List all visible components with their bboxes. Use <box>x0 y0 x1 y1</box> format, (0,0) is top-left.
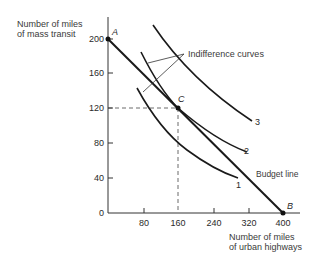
point-b-marker <box>281 211 286 216</box>
indifference-curve-1 <box>137 88 238 178</box>
y-tick-label-40: 40 <box>80 173 104 183</box>
x-tick-label-80: 80 <box>132 218 156 228</box>
point-c-marker <box>176 106 181 111</box>
x-axis-title-line2: of urban highways <box>229 242 302 253</box>
point-c-label: C <box>178 94 185 104</box>
x-tick-label-320: 320 <box>237 218 261 228</box>
budget-line-label: Budget line <box>256 169 299 180</box>
y-tick-label-80: 80 <box>80 138 104 148</box>
x-tick-label-400: 400 <box>271 218 295 228</box>
point-a-label: A <box>112 27 118 37</box>
y-tick-label-200: 200 <box>80 34 104 44</box>
point-b-label: B <box>287 201 293 211</box>
y-ticks <box>108 39 113 178</box>
y-tick-label-0: 0 <box>80 208 104 218</box>
indifference-curves-label: Indifference curves <box>188 49 264 60</box>
indifference-curve-3 <box>153 25 252 121</box>
point-a-marker <box>106 37 111 42</box>
x-ticks <box>144 208 249 213</box>
x-tick-label-160: 160 <box>166 218 190 228</box>
y-axis-title-line2: of mass transit <box>17 29 76 40</box>
indifference-pointer-lines <box>143 54 184 92</box>
y-tick-label-160: 160 <box>80 68 104 78</box>
indifference-curve-2 <box>141 52 247 152</box>
curve-1-label: 1 <box>236 180 241 190</box>
x-tick-label-240: 240 <box>202 218 226 228</box>
y-tick-label-120: 120 <box>80 103 104 113</box>
curve-2-label: 2 <box>244 146 249 156</box>
curve-3-label: 3 <box>255 117 260 127</box>
